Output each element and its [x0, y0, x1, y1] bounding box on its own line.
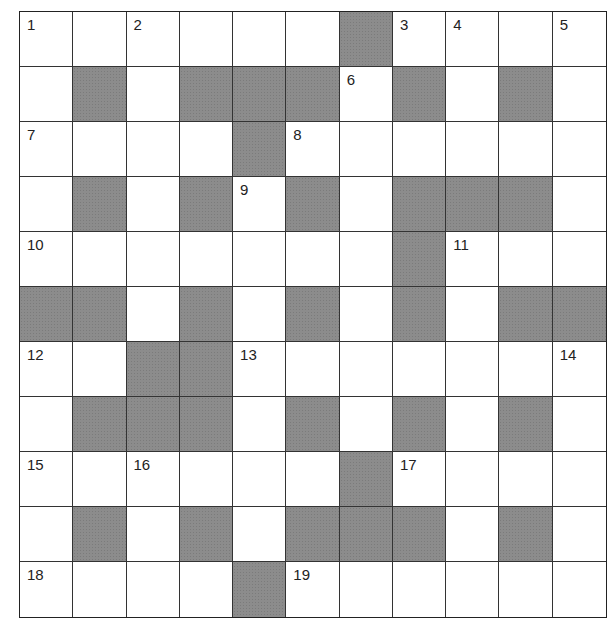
letter-cell[interactable] [127, 122, 180, 177]
letter-cell[interactable] [340, 397, 393, 452]
letter-cell[interactable] [393, 122, 446, 177]
letter-cell[interactable] [180, 232, 233, 287]
letter-cell[interactable]: 9 [233, 177, 286, 232]
letter-cell[interactable]: 12 [20, 342, 73, 397]
letter-cell[interactable]: 7 [20, 122, 73, 177]
letter-cell[interactable] [393, 342, 446, 397]
letter-cell[interactable]: 19 [286, 562, 339, 617]
letter-cell[interactable] [446, 507, 499, 562]
clue-number: 19 [293, 567, 310, 582]
letter-cell[interactable] [180, 452, 233, 507]
letter-cell[interactable] [73, 452, 126, 507]
letter-cell[interactable] [20, 397, 73, 452]
clue-number: 16 [134, 457, 151, 472]
black-square [499, 177, 552, 232]
black-square [499, 67, 552, 122]
letter-cell[interactable]: 8 [286, 122, 339, 177]
letter-cell[interactable]: 13 [233, 342, 286, 397]
letter-cell[interactable] [20, 67, 73, 122]
letter-cell[interactable]: 15 [20, 452, 73, 507]
letter-cell[interactable]: 1 [20, 12, 73, 67]
letter-cell[interactable] [180, 122, 233, 177]
letter-cell[interactable] [553, 232, 606, 287]
letter-cell[interactable] [499, 122, 552, 177]
letter-cell[interactable] [553, 67, 606, 122]
letter-cell[interactable] [446, 122, 499, 177]
letter-cell[interactable] [233, 507, 286, 562]
letter-cell[interactable] [446, 67, 499, 122]
letter-cell[interactable] [553, 507, 606, 562]
letter-cell[interactable] [180, 12, 233, 67]
letter-cell[interactable] [340, 177, 393, 232]
letter-cell[interactable] [233, 287, 286, 342]
letter-cell[interactable] [73, 562, 126, 617]
letter-cell[interactable] [499, 12, 552, 67]
letter-cell[interactable] [73, 12, 126, 67]
letter-cell[interactable] [499, 232, 552, 287]
black-square [73, 397, 126, 452]
letter-cell[interactable] [553, 177, 606, 232]
letter-cell[interactable] [20, 177, 73, 232]
letter-cell[interactable] [553, 122, 606, 177]
letter-cell[interactable]: 14 [553, 342, 606, 397]
black-square [286, 177, 339, 232]
clue-number: 12 [27, 347, 44, 362]
letter-cell[interactable]: 3 [393, 12, 446, 67]
letter-cell[interactable] [180, 562, 233, 617]
black-square [393, 287, 446, 342]
letter-cell[interactable]: 11 [446, 232, 499, 287]
clue-number: 15 [27, 457, 44, 472]
letter-cell[interactable]: 10 [20, 232, 73, 287]
letter-cell[interactable] [393, 562, 446, 617]
letter-cell[interactable] [73, 232, 126, 287]
letter-cell[interactable] [340, 122, 393, 177]
letter-cell[interactable] [286, 452, 339, 507]
letter-cell[interactable] [233, 12, 286, 67]
letter-cell[interactable] [446, 452, 499, 507]
letter-cell[interactable] [446, 397, 499, 452]
letter-cell[interactable] [446, 287, 499, 342]
letter-cell[interactable] [233, 452, 286, 507]
black-square [127, 397, 180, 452]
clue-number: 4 [453, 17, 461, 32]
letter-cell[interactable]: 16 [127, 452, 180, 507]
letter-cell[interactable]: 5 [553, 12, 606, 67]
letter-cell[interactable]: 6 [340, 67, 393, 122]
letter-cell[interactable] [553, 452, 606, 507]
letter-cell[interactable]: 2 [127, 12, 180, 67]
letter-cell[interactable] [499, 342, 552, 397]
letter-cell[interactable] [127, 507, 180, 562]
letter-cell[interactable] [286, 232, 339, 287]
letter-cell[interactable] [499, 452, 552, 507]
black-square [233, 562, 286, 617]
letter-cell[interactable]: 17 [393, 452, 446, 507]
letter-cell[interactable] [553, 562, 606, 617]
letter-cell[interactable] [446, 342, 499, 397]
letter-cell[interactable] [233, 232, 286, 287]
letter-cell[interactable] [340, 342, 393, 397]
letter-cell[interactable] [446, 562, 499, 617]
letter-cell[interactable] [286, 12, 339, 67]
black-square [393, 232, 446, 287]
black-square [393, 177, 446, 232]
black-square [180, 67, 233, 122]
letter-cell[interactable] [127, 232, 180, 287]
letter-cell[interactable] [340, 232, 393, 287]
letter-cell[interactable] [233, 397, 286, 452]
letter-cell[interactable] [499, 562, 552, 617]
letter-cell[interactable] [127, 67, 180, 122]
letter-cell[interactable] [73, 342, 126, 397]
crossword-puzzle: 12345678910111213141516171819 [19, 11, 607, 618]
black-square [340, 452, 393, 507]
letter-cell[interactable]: 4 [446, 12, 499, 67]
letter-cell[interactable] [340, 562, 393, 617]
letter-cell[interactable] [553, 397, 606, 452]
letter-cell[interactable] [127, 287, 180, 342]
letter-cell[interactable] [127, 562, 180, 617]
letter-cell[interactable] [73, 122, 126, 177]
letter-cell[interactable] [340, 287, 393, 342]
letter-cell[interactable] [127, 177, 180, 232]
letter-cell[interactable] [286, 342, 339, 397]
letter-cell[interactable]: 18 [20, 562, 73, 617]
letter-cell[interactable] [20, 507, 73, 562]
